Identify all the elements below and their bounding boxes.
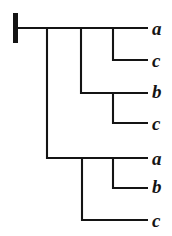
- tip-label-4: c: [152, 114, 160, 133]
- tip-label-3: b: [152, 82, 162, 101]
- tip-label-5: a: [152, 149, 162, 168]
- tip-label-1: a: [152, 19, 162, 38]
- tip-label-6: b: [152, 177, 162, 196]
- cladogram-figure: a c b c a b c: [0, 0, 172, 236]
- tip-label-2: c: [152, 51, 160, 70]
- tip-label-7: c: [152, 211, 160, 230]
- cladogram-canvas: [0, 0, 172, 236]
